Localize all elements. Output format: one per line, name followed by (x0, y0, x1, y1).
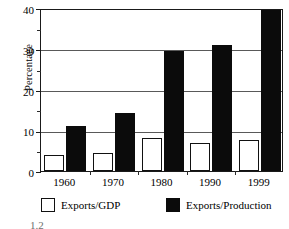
bar-1970-exports-gdp (93, 153, 113, 171)
bar-1999-exports-production (261, 10, 281, 171)
x-tick-label-1990: 1990 (199, 176, 221, 188)
y-tick-label-20: 20 (23, 86, 34, 97)
y-tick-minor-15 (37, 111, 41, 112)
y-tick-label-40: 40 (23, 5, 34, 16)
y-tick-major-0 (36, 172, 41, 173)
plot-area: 010203040 (40, 9, 283, 172)
black-square-swatch (166, 198, 180, 212)
bar-1960-exports-gdp (44, 155, 64, 171)
chart-legend: Exports/GDPExports/Production (0, 195, 289, 215)
y-tick-label-0: 0 (29, 168, 35, 179)
x-tick-separator-2 (187, 171, 188, 175)
y-tick-major-10 (36, 132, 41, 133)
bar-1990-exports-production (212, 45, 232, 171)
x-tick-separator-1 (138, 171, 139, 175)
legend-entry-exports-production: Exports/Production (166, 198, 272, 212)
x-tick-label-1980: 1980 (151, 176, 173, 188)
gridline-20 (41, 91, 282, 92)
y-tick-minor-25 (37, 71, 41, 72)
x-tick-separator-0 (90, 171, 91, 175)
y-tick-major-20 (36, 91, 41, 92)
y-tick-label-30: 30 (23, 45, 34, 56)
legend-label-exports-production: Exports/Production (186, 199, 272, 211)
bar-1980-exports-production (164, 51, 184, 171)
gridline-30 (41, 50, 282, 51)
y-tick-major-40 (36, 9, 41, 10)
x-tick-label-1960: 1960 (53, 176, 75, 188)
legend-label-exports-gdp: Exports/GDP (61, 199, 120, 211)
legend-entry-exports-gdp: Exports/GDP (41, 198, 120, 212)
bar-1970-exports-production (115, 113, 135, 171)
y-tick-major-30 (36, 50, 41, 51)
x-tick-label-1970: 1970 (102, 176, 124, 188)
bar-1960-exports-production (66, 126, 86, 171)
x-tick-label-1999: 1999 (248, 176, 270, 188)
bar-1990-exports-gdp (190, 143, 210, 171)
y-tick-minor-5 (37, 152, 41, 153)
y-axis-title: Percentage (23, 13, 34, 123)
caption-remnant: 1.2 (30, 221, 44, 229)
y-tick-minor-35 (37, 30, 41, 31)
bar-1980-exports-gdp (142, 138, 162, 171)
x-tick-separator-3 (235, 171, 236, 175)
y-tick-label-10: 10 (23, 127, 34, 138)
figure-bar-chart: Percentage 010203040 1960197019801990199… (0, 0, 289, 229)
white-square-swatch (41, 198, 55, 212)
bar-1999-exports-gdp (239, 140, 259, 171)
